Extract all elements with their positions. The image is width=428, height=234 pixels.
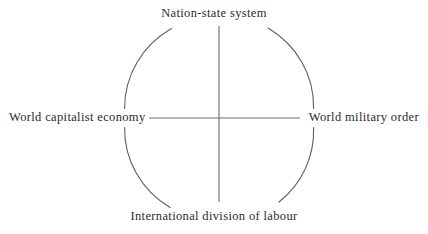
ellipse-arc-bottom-right xyxy=(279,128,314,203)
node-label-international-division-of-labour: International division of labour xyxy=(127,209,300,223)
node-label-world-military-order: World military order xyxy=(306,110,422,124)
ellipse-arc-bottom-left xyxy=(125,128,170,208)
ellipse-arc-top-left xyxy=(125,29,172,109)
node-label-nation-state-system: Nation-state system xyxy=(158,6,270,20)
ellipse-arc-top-right xyxy=(268,28,314,109)
node-label-world-capitalist-economy: World capitalist economy xyxy=(6,110,149,124)
diagram-canvas: Nation-state system World military order… xyxy=(0,0,428,234)
